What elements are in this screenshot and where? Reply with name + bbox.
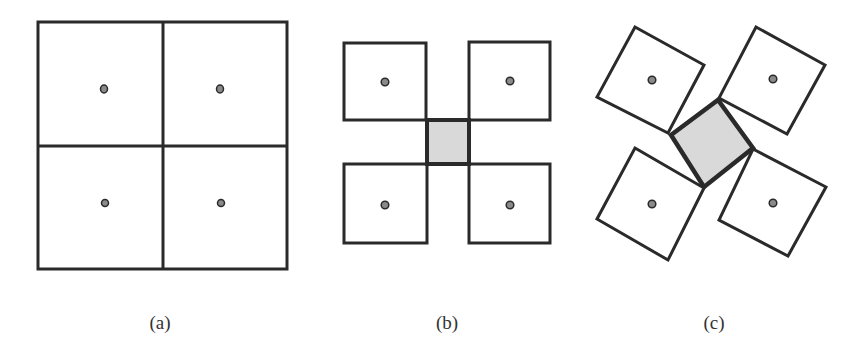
- center-dot: [769, 75, 777, 83]
- caption-a: (a): [149, 312, 170, 334]
- center-shaded-square: [427, 120, 469, 164]
- panel-c: [597, 27, 826, 260]
- center-dot: [648, 76, 656, 84]
- caption-b: (b): [436, 312, 458, 334]
- center-dot: [769, 199, 777, 207]
- panel-b: [344, 42, 550, 243]
- diagram-canvas: [0, 0, 862, 350]
- center-dot: [648, 200, 656, 208]
- center-dot: [102, 200, 109, 207]
- center-dot: [217, 85, 224, 93]
- center-dot: [506, 77, 514, 85]
- panel-a: [38, 22, 287, 269]
- center-dot: [381, 201, 389, 209]
- caption-c: (c): [703, 312, 724, 334]
- center-dot: [506, 201, 514, 209]
- center-dot: [381, 78, 389, 86]
- center-dot: [218, 200, 225, 207]
- center-dot: [101, 85, 108, 93]
